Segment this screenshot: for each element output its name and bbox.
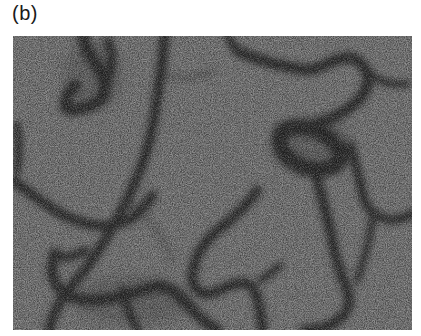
panel-label: (b) <box>12 3 38 23</box>
micrograph-image <box>13 36 412 330</box>
